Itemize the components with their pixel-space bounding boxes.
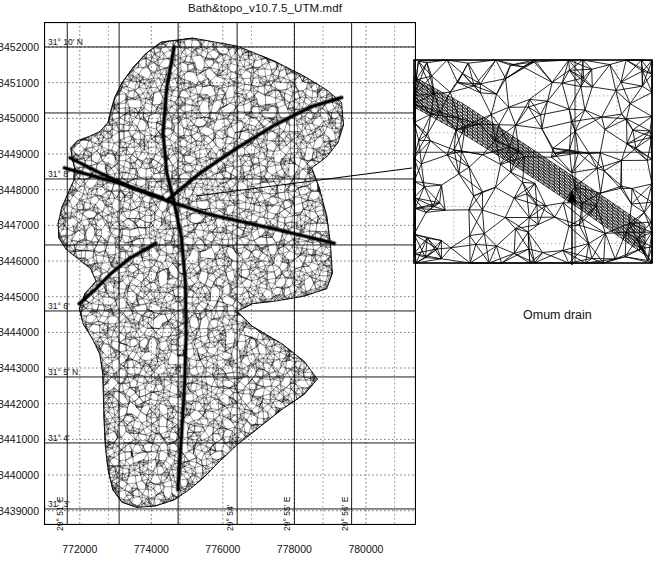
longitude-label: 29° 55' E [282,497,292,531]
y-axis-tick-label: 3441000 [0,433,39,445]
map-mesh-triangles [58,38,343,507]
longitude-label: 29° 51' E [55,497,65,531]
latitude-label: 31° 8' [48,169,70,179]
x-axis-tick-label: 778000 [277,543,312,555]
y-axis-tick-label: 3451000 [0,77,39,89]
inset-panel [413,59,653,264]
latitude-label: 31° 10' N [48,37,83,47]
latitude-label: 31° 6' [48,301,70,311]
omum-drain-label: Omum drain [523,308,592,322]
map-plot-frame [44,22,416,525]
y-axis-tick-label: 3445000 [0,291,39,303]
x-axis-tick-label: 776000 [205,543,240,555]
y-axis-tick-label: 3442000 [0,398,39,410]
y-axis-tick-label: 3450000 [0,112,39,124]
y-axis-tick-label: 3449000 [0,148,39,160]
map-drain-channels [65,47,342,490]
y-axis-tick-label: 3439000 [0,505,39,517]
figure-title: Bath&topo_v10.7.5_UTM.mdf [150,2,380,14]
figure-root: Bath&topo_v10.7.5_UTM.mdf 34520003451000… [0,0,662,570]
main-map-mesh [44,22,416,525]
longitude-label: 29° 54' [225,505,235,531]
y-axis-tick-label: 3443000 [0,362,39,374]
latitude-label: 31° 5' N [48,367,78,377]
latitude-label: 31° 4' [48,433,70,443]
map-gridlines [44,22,416,525]
x-axis-tick-label: 772000 [62,543,97,555]
longitude-label: 29° 56' E [340,497,350,531]
main-map-panel: 3452000345100034500003449000344800034470… [44,22,416,532]
map-frame-lines [44,22,416,525]
y-axis-tick-label: 3452000 [0,41,39,53]
y-axis-tick-label: 3448000 [0,184,39,196]
y-axis-tick-label: 3444000 [0,326,39,338]
inset-mesh [413,59,653,264]
y-axis-tick-label: 3440000 [0,469,39,481]
x-axis-tick-label: 774000 [134,543,169,555]
y-axis-tick-label: 3447000 [0,219,39,231]
x-axis-tick-label: 780000 [348,543,383,555]
y-axis-tick-label: 3446000 [0,255,39,267]
